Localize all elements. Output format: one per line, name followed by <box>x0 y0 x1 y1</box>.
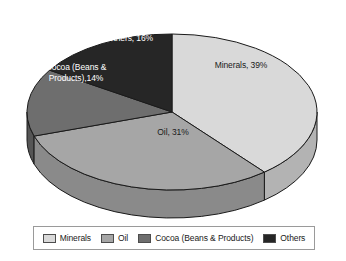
legend-swatch-oil <box>101 234 114 243</box>
pie-chart-graphic <box>0 0 346 261</box>
legend-label-others: Others <box>280 233 305 243</box>
legend-swatch-cocoa <box>138 234 151 243</box>
legend-item-oil[interactable]: Oil <box>101 233 128 243</box>
legend-item-cocoa[interactable]: Cocoa (Beans & Products) <box>138 233 253 243</box>
legend-swatch-others <box>263 234 276 243</box>
chart-legend: Minerals Oil Cocoa (Beans & Products) Ot… <box>33 226 315 250</box>
legend-label-minerals: Minerals <box>60 233 91 243</box>
legend-item-others[interactable]: Others <box>263 233 305 243</box>
pie-chart: Minerals, 39% Oil, 31% Cocoa (Beans & Pr… <box>0 0 346 261</box>
legend-label-cocoa: Cocoa (Beans & Products) <box>155 233 253 243</box>
pie-top-faces <box>27 34 317 190</box>
legend-swatch-minerals <box>43 234 56 243</box>
legend-label-oil: Oil <box>118 233 128 243</box>
legend-item-minerals[interactable]: Minerals <box>43 233 91 243</box>
